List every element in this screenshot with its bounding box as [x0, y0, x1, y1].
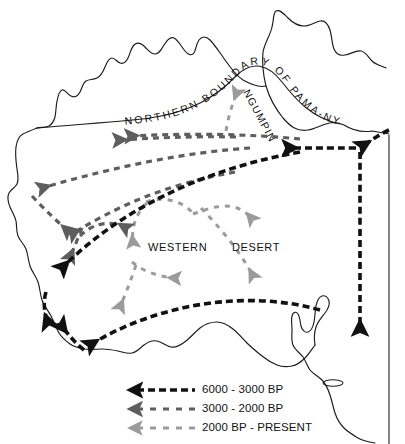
arrow-ne-entry [362, 130, 389, 146]
australia-diffusion-map: NORTHERN BOUNDARY OF PAMA-NYUNGAN NGUMPI… [0, 0, 405, 444]
arrow-west-interior [32, 196, 68, 231]
legend-item-period-1: 6000 - 3000 BP [137, 383, 284, 395]
boundary-label-text: NORTHERN BOUNDARY OF PAMA-NYUNGAN [0, 0, 344, 127]
arrow-south-sweep [90, 301, 320, 345]
arrow-sweep-west [42, 148, 250, 188]
arrow-southwest-up [61, 325, 84, 350]
region-label-western: WESTERN [148, 241, 207, 253]
island-shape [323, 380, 343, 386]
legend: 6000 - 3000 BP 3000 - 2000 BP 2000 BP - … [137, 383, 312, 433]
boundary-label: NORTHERN BOUNDARY OF PAMA-NYUNGAN [0, 0, 344, 127]
legend-item-period-2: 3000 - 2000 BP [137, 402, 284, 414]
arrow-ngumpin-north [226, 92, 237, 131]
region-label-desert: DESERT [232, 241, 280, 253]
arrow-top-west-2 [118, 137, 236, 140]
arrow-westcoast-down [44, 292, 48, 323]
arrows-3000-2000bp [32, 134, 300, 257]
map-figure: NORTHERN BOUNDARY OF PAMA-NYUNGAN NGUMPI… [0, 0, 405, 444]
arrow-wd-east [132, 262, 176, 278]
arrows-6000-3000bp [44, 130, 389, 350]
arrow-wd-southwest2 [120, 265, 136, 307]
legend-label-6000-3000: 6000 - 3000 BP [202, 383, 284, 395]
legend-label-3000-2000: 3000 - 2000 BP [202, 402, 284, 414]
legend-item-period-3: 2000 BP - PRESENT [137, 421, 312, 433]
legend-label-2000-present: 2000 BP - PRESENT [202, 421, 312, 433]
